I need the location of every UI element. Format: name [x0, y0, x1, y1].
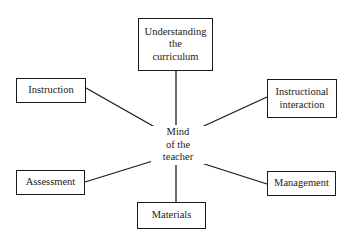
node-understanding-curriculum: Understanding the curriculum — [138, 18, 213, 71]
edge-instruction — [86, 88, 160, 130]
node-label-line: the — [169, 38, 182, 51]
center-node-mind-of-the-teacher: Mind of the teacher — [151, 126, 205, 164]
node-label: Management — [274, 177, 329, 190]
node-label-line: Instructional — [275, 86, 328, 99]
center-label-line: teacher — [153, 151, 203, 164]
node-label: Assessment — [26, 176, 76, 189]
center-label-line: Mind — [153, 126, 203, 139]
node-instructional-interaction: Instructional interaction — [267, 79, 337, 118]
node-management: Management — [267, 171, 336, 196]
node-materials: Materials — [137, 202, 206, 229]
node-label-line: interaction — [280, 99, 325, 112]
edge-management — [195, 161, 267, 184]
node-label-line: Understanding — [145, 26, 207, 39]
center-label-line: of the — [153, 139, 203, 152]
node-label-line: curriculum — [152, 51, 198, 64]
node-label: Materials — [152, 209, 192, 222]
node-assessment: Assessment — [16, 170, 85, 195]
node-instruction: Instruction — [16, 78, 86, 103]
node-label: Instruction — [28, 84, 74, 97]
edge-assessment — [85, 160, 156, 182]
